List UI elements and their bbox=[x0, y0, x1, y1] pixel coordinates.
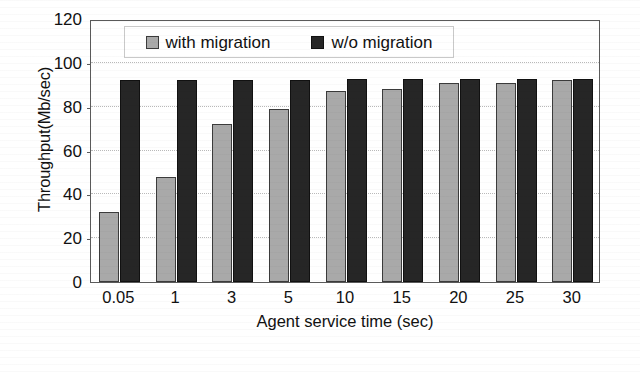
y-tick-label: 20 bbox=[36, 230, 82, 247]
y-tick-label: 0 bbox=[36, 274, 82, 291]
x-tick-label: 1 bbox=[145, 288, 205, 306]
plot-area bbox=[90, 20, 600, 283]
y-tick-label: 80 bbox=[36, 99, 82, 116]
bar-with-migration-5 bbox=[269, 109, 289, 282]
bar-with-migration-0.05 bbox=[99, 212, 119, 282]
x-tick-label: 10 bbox=[315, 288, 375, 306]
y-tick-label: 100 bbox=[36, 55, 82, 72]
gridline bbox=[91, 62, 599, 63]
x-tick-label: 30 bbox=[542, 288, 602, 306]
y-tick-label: 60 bbox=[36, 143, 82, 160]
x-tick-label: 0.05 bbox=[88, 288, 148, 306]
legend: with migration w/o migration bbox=[124, 26, 454, 58]
bar-with-migration-20 bbox=[439, 83, 459, 282]
x-tick-label: 25 bbox=[485, 288, 545, 306]
legend-item-wo-migration: w/o migration bbox=[311, 34, 432, 51]
bar-w-o-migration-5 bbox=[290, 80, 310, 282]
x-tick-label: 3 bbox=[202, 288, 262, 306]
bar-with-migration-3 bbox=[212, 124, 232, 282]
bar-with-migration-15 bbox=[382, 89, 402, 282]
legend-swatch-with-migration bbox=[146, 36, 159, 49]
y-tick-label: 120 bbox=[36, 11, 82, 28]
bar-w-o-migration-30 bbox=[573, 79, 593, 282]
bar-with-migration-1 bbox=[156, 177, 176, 282]
legend-label-wo-migration: w/o migration bbox=[331, 34, 432, 51]
x-tick-label: 5 bbox=[258, 288, 318, 306]
bar-w-o-migration-20 bbox=[460, 79, 480, 282]
legend-label-with-migration: with migration bbox=[166, 34, 271, 51]
x-tick-label: 15 bbox=[372, 288, 432, 306]
bar-w-o-migration-1 bbox=[177, 80, 197, 282]
legend-item-with-migration: with migration bbox=[146, 34, 271, 51]
bar-with-migration-25 bbox=[496, 83, 516, 282]
bar-w-o-migration-25 bbox=[517, 79, 537, 282]
bar-w-o-migration-10 bbox=[347, 79, 367, 282]
bar-with-migration-10 bbox=[326, 91, 346, 282]
x-tick-label: 20 bbox=[428, 288, 488, 306]
figure: Throughput(Mb/sec) 020406080100120 with … bbox=[0, 0, 640, 372]
bar-w-o-migration-15 bbox=[403, 79, 423, 282]
legend-swatch-wo-migration bbox=[311, 36, 324, 49]
x-axis-title: Agent service time (sec) bbox=[90, 312, 600, 331]
y-tick-label: 40 bbox=[36, 186, 82, 203]
bar-w-o-migration-0.05 bbox=[120, 80, 140, 282]
bar-with-migration-30 bbox=[552, 80, 572, 282]
bar-w-o-migration-3 bbox=[233, 80, 253, 282]
